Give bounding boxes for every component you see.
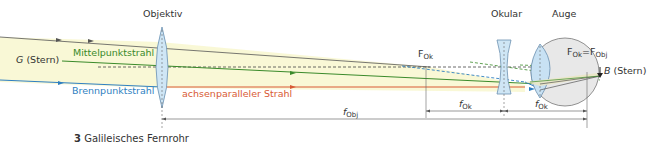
- arrow-icon: [500, 110, 504, 113]
- arrow-icon: [162, 118, 166, 121]
- focal-point-ok-label: FOk: [418, 48, 433, 61]
- image-label: B (Stern): [604, 65, 646, 76]
- arrow-icon: [583, 110, 587, 113]
- eye-label: Auge: [552, 8, 576, 19]
- focal-ray-label: Brennpunktstrahl: [72, 85, 154, 96]
- eyepiece-label: Okular: [491, 8, 522, 19]
- arrow-icon: [504, 110, 508, 113]
- center-ray-label: Mittelpunktstrahl: [73, 47, 154, 58]
- object-label: G (Stern): [16, 54, 59, 65]
- focal-equality-label: FOk=FObj: [567, 46, 607, 59]
- arrow-icon: [426, 110, 430, 113]
- f-ok-label-1: fOk: [459, 98, 472, 111]
- galilean-telescope-diagram: [0, 0, 664, 146]
- arrow-icon: [583, 118, 587, 121]
- f-obj-label: fObj: [343, 106, 358, 119]
- figure-caption: 3 Galileisches Fernrohr: [74, 133, 189, 144]
- f-ok-label-2: fOk: [535, 98, 548, 111]
- objective-label: Objektiv: [143, 8, 182, 19]
- parallel-ray-label: achsenparalleler Strahl: [182, 88, 292, 99]
